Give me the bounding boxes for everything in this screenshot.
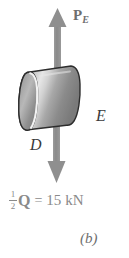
fraction-one-half: 1 2 bbox=[9, 190, 17, 212]
equation-operator: = bbox=[34, 193, 42, 209]
cylinder-shape bbox=[19, 66, 80, 130]
fraction-denominator: 2 bbox=[10, 202, 17, 211]
point-label-D: D bbox=[30, 137, 42, 153]
figure-container: PE E D 1 2 Q = 15 kN (b) bbox=[0, 0, 129, 258]
force-symbol-P: P bbox=[73, 7, 82, 23]
equation-value: 15 bbox=[46, 192, 61, 209]
equation-quantity-Q: Q bbox=[18, 192, 30, 210]
arrow-up-icon bbox=[49, 8, 67, 74]
figure-caption: (b) bbox=[80, 231, 98, 246]
equation-unit: kN bbox=[65, 192, 83, 209]
fraction-numerator: 1 bbox=[10, 190, 17, 199]
point-label-E: E bbox=[96, 108, 106, 124]
force-label-PE: PE bbox=[73, 8, 89, 25]
force-subscript-E: E bbox=[82, 14, 89, 25]
figure-graphic bbox=[0, 0, 129, 258]
force-equation: 1 2 Q = 15 kN bbox=[9, 190, 84, 212]
